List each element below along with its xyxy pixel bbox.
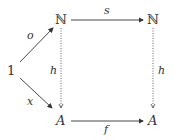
node-a-left: A	[56, 114, 65, 127]
node-n-right: ℕ	[147, 13, 159, 26]
label-s: s	[104, 5, 110, 16]
node-one: 1	[7, 64, 15, 77]
arrow-o	[20, 28, 53, 62]
node-n-left: ℕ	[55, 13, 67, 26]
arrow-x	[20, 78, 52, 108]
label-o: o	[27, 30, 34, 41]
label-f: f	[104, 124, 108, 135]
node-a-right: A	[148, 114, 157, 127]
label-x: x	[27, 96, 33, 107]
label-h-left: h	[50, 65, 57, 76]
label-h-right: h	[158, 65, 165, 76]
